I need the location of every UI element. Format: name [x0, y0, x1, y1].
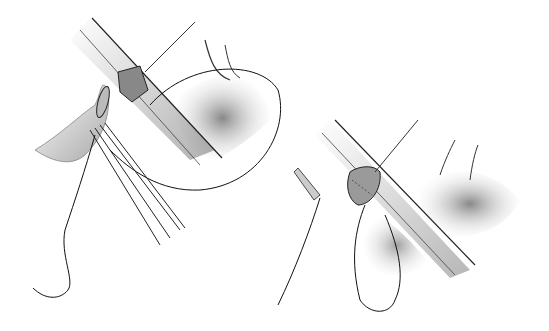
left-panel [33, 18, 281, 297]
surgical-illustration [0, 0, 549, 331]
illustration [0, 0, 549, 331]
right-panel [278, 120, 520, 311]
